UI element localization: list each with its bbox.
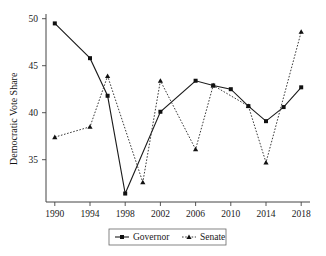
data-point-governor	[158, 110, 162, 114]
x-tick-label: 1998	[116, 209, 135, 219]
x-tick-label: 2002	[151, 209, 170, 219]
y-axis-ticks: 35404550	[29, 14, 47, 165]
y-tick-label: 35	[29, 155, 39, 165]
legend-marker-governor	[120, 235, 124, 239]
data-point-governor	[88, 56, 92, 60]
data-point-senate	[105, 73, 110, 78]
x-tick-label: 2018	[292, 209, 311, 219]
x-tick-label: 2010	[221, 209, 240, 219]
x-tick-label: 1994	[81, 209, 100, 219]
data-point-senate	[299, 29, 304, 34]
data-point-governor	[299, 85, 303, 89]
x-tick-label: 1990	[45, 209, 64, 219]
data-point-governor	[106, 94, 110, 98]
data-point-governor	[229, 87, 233, 91]
data-point-senate	[158, 78, 163, 83]
data-point-senate	[140, 180, 145, 185]
x-tick-label: 2006	[186, 209, 205, 219]
data-point-governor	[282, 105, 286, 109]
y-tick-label: 50	[29, 14, 39, 24]
chart-legend: GovernorSenate	[109, 229, 226, 245]
line-chart: Democratic Vote Share 35404550 199019941…	[0, 0, 326, 256]
data-point-senate	[52, 135, 57, 140]
data-point-governor	[194, 79, 198, 83]
legend-label-senate[interactable]: Senate	[200, 232, 225, 242]
series-line-senate	[55, 32, 301, 182]
y-tick-label: 45	[29, 61, 39, 71]
legend-label-governor[interactable]: Governor	[133, 232, 170, 242]
data-point-senate	[87, 124, 92, 129]
y-tick-label: 40	[29, 108, 39, 118]
chart-container: Democratic Vote Share 35404550 199019941…	[0, 0, 326, 256]
series-layer	[52, 21, 304, 195]
y-axis-title: Democratic Vote Share	[8, 72, 19, 165]
data-point-governor	[53, 21, 57, 25]
data-point-governor	[123, 192, 127, 196]
data-point-senate	[263, 160, 268, 165]
data-point-governor	[264, 119, 268, 123]
series-line-governor	[55, 23, 301, 193]
x-axis-ticks: 19901994199820022006201020142018	[45, 202, 311, 219]
x-tick-label: 2014	[257, 209, 276, 219]
data-point-senate	[193, 147, 198, 152]
